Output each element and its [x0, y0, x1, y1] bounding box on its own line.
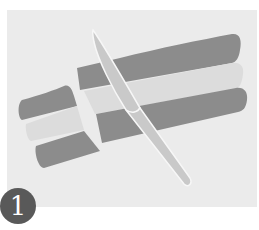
step-number-badge: 1: [0, 188, 36, 224]
clay-cutting-illustration: [0, 0, 259, 230]
